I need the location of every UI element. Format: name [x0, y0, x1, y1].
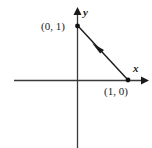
point-label-1-0: (1, 0) — [104, 85, 128, 98]
coordinate-plane-figure: y x (0, 1) (1, 0) — [0, 0, 152, 148]
x-axis-arrowhead-icon — [141, 77, 149, 85]
x-axis-label: x — [132, 62, 139, 74]
y-axis-arrowhead-icon — [74, 7, 82, 15]
y-axis-label: y — [81, 6, 88, 18]
point-label-0-1: (0, 1) — [41, 20, 65, 33]
vector-segment-line — [78, 26, 128, 80]
figure-canvas: y x (0, 1) (1, 0) — [0, 0, 152, 148]
point-dot-1-0 — [126, 78, 131, 83]
point-dot-0-1 — [75, 24, 80, 29]
